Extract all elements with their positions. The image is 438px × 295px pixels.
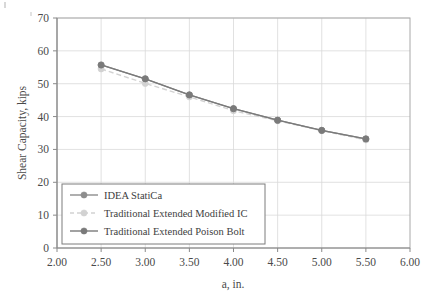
x-tick-label: 6.00 [400, 256, 420, 268]
x-tick-label: 5.50 [356, 256, 376, 268]
series-marker [319, 127, 325, 133]
series-marker [275, 117, 281, 123]
x-axis-ticks [57, 248, 410, 252]
x-tick-label: 2.50 [91, 256, 111, 268]
y-tick-label: 50 [38, 78, 50, 90]
y-tick-label: 60 [38, 45, 50, 57]
chart-legend: IDEA StatiCaTraditional Extended Modifie… [62, 184, 265, 244]
legend-marker-swatch [81, 192, 87, 198]
series-marker [363, 136, 369, 142]
x-tick-label: 5.00 [312, 256, 332, 268]
x-axis-tick-labels: 2.002.503.003.504.004.505.005.506.00 [47, 256, 420, 268]
legend-marker-swatch [81, 228, 87, 234]
x-tick-label: 2.00 [47, 256, 67, 268]
y-tick-label: 0 [43, 242, 49, 254]
chart-figure: 010203040506070 2.002.503.003.504.004.50… [0, 0, 438, 295]
x-tick-label: 4.00 [223, 256, 243, 268]
y-tick-label: 70 [38, 12, 50, 24]
series-marker [230, 106, 236, 112]
x-tick-label: 3.00 [135, 256, 155, 268]
y-tick-label: 20 [38, 176, 50, 188]
scan-artifact [30, 12, 32, 16]
y-tick-label: 10 [38, 209, 50, 221]
legend-label: IDEA StatiCa [104, 190, 162, 201]
y-axis-tick-labels: 010203040506070 [38, 12, 50, 254]
y-tick-label: 30 [38, 143, 50, 155]
x-tick-label: 4.50 [268, 256, 288, 268]
legend-marker-swatch [81, 210, 87, 216]
series-marker [142, 76, 148, 82]
x-tick-label: 3.50 [179, 256, 199, 268]
series-marker [186, 92, 192, 98]
line-chart: 010203040506070 2.002.503.003.504.004.50… [0, 0, 438, 295]
scan-artifact [4, 2, 6, 8]
series-marker [98, 62, 104, 68]
legend-label: Traditional Extended Poison Bolt [104, 226, 245, 237]
x-axis-title: a, in. [222, 278, 245, 291]
y-axis-title: Shear Capacity, kips [16, 85, 29, 180]
legend-label: Traditional Extended Modified IC [104, 208, 247, 219]
y-tick-label: 40 [38, 111, 50, 123]
